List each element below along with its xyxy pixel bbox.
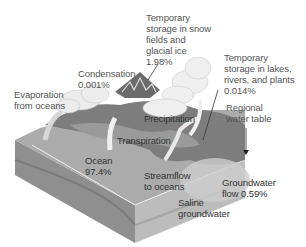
snow-storage-label: Temporary storage in snow fields and gla… bbox=[146, 12, 211, 67]
condensation-label: Condensation 0.001% bbox=[78, 68, 135, 90]
ocean-label: Ocean 97.4% bbox=[85, 155, 113, 177]
transpiration-label: Transpiration bbox=[117, 135, 171, 146]
groundwater-flow-label: Groundwater flow 0.59% bbox=[222, 177, 276, 199]
saline-groundwater-label: Saline groundwater bbox=[178, 197, 230, 219]
precipitation-label: Precipitation bbox=[144, 113, 195, 124]
hydrologic-cycle-diagram: Temporary storage in snow fields and gla… bbox=[0, 0, 306, 247]
streamflow-label: Streamflow to oceans bbox=[144, 170, 191, 192]
evaporation-label: Evaporation from oceans bbox=[14, 89, 65, 111]
lake-storage-label: Temporary storage in lakes, rivers, and … bbox=[224, 52, 295, 96]
regional-water-table-label: Regional water table bbox=[226, 102, 271, 124]
